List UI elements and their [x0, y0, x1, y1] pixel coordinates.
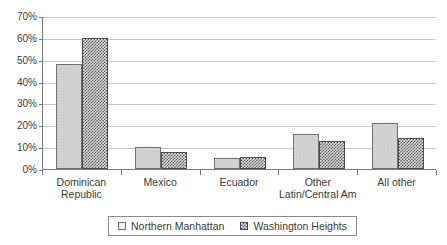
x-axis-label-line: Republic [42, 188, 121, 200]
x-axis-label-line: Dominican [42, 176, 121, 188]
chart-legend: Northern ManhattanWashington Heights [108, 216, 357, 236]
legend-swatch-icon [240, 222, 248, 230]
bar [240, 157, 266, 169]
x-tick-mark [278, 170, 279, 175]
x-tick-mark [42, 170, 43, 175]
bar [319, 141, 345, 169]
x-axis-label: All other [357, 176, 436, 188]
x-axis-label-line: Other [278, 176, 357, 188]
x-tick-mark [121, 170, 122, 175]
x-tick-mark [357, 170, 358, 175]
x-axis-label: Ecuador [200, 176, 279, 188]
legend-label: Northern Manhattan [131, 220, 224, 232]
y-axis-label: 30% [17, 99, 37, 109]
bar [161, 152, 187, 169]
plot-area: 0%10%20%30%40%50%60%70% [42, 17, 436, 170]
bar [372, 123, 398, 169]
x-axis-label: OtherLatin/Central Am [278, 176, 357, 200]
bar-group [122, 17, 201, 169]
legend-swatch-icon [118, 222, 126, 230]
bar [214, 158, 240, 169]
bar-group [358, 17, 437, 169]
legend-item[interactable]: Washington Heights [240, 220, 347, 232]
bar [82, 38, 108, 169]
y-axis-label: 50% [17, 56, 37, 66]
y-axis-label: 60% [17, 34, 37, 44]
bar-chart: 0%10%20%30%40%50%60%70% DominicanRepubli… [0, 0, 447, 245]
bar [293, 134, 319, 169]
x-axis-label-line: All other [357, 176, 436, 188]
x-axis-label: DominicanRepublic [42, 176, 121, 200]
y-axis-label: 10% [17, 143, 37, 153]
bar-group [279, 17, 358, 169]
x-axis-label: Mexico [121, 176, 200, 188]
x-axis-label-line: Ecuador [200, 176, 279, 188]
bar-group [201, 17, 280, 169]
y-axis-label: 40% [17, 78, 37, 88]
y-axis-label: 20% [17, 121, 37, 131]
x-tick-mark [200, 170, 201, 175]
legend-label: Washington Heights [253, 220, 347, 232]
bar [398, 138, 424, 169]
legend-item[interactable]: Northern Manhattan [118, 220, 224, 232]
bar-group [43, 17, 122, 169]
y-axis-label: 70% [17, 12, 37, 22]
x-axis-label-line: Mexico [121, 176, 200, 188]
bar [56, 64, 82, 169]
x-tick-mark [436, 170, 437, 175]
x-axis-label-line: Latin/Central Am [278, 188, 357, 200]
bar [135, 147, 161, 169]
y-axis-label: 0% [23, 165, 37, 175]
